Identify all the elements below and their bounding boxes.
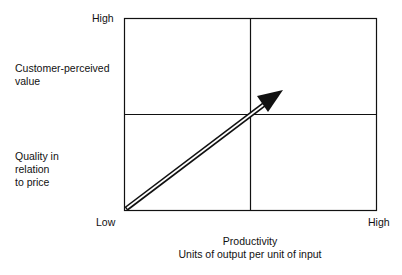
- y-axis-low-label: Low: [96, 216, 115, 229]
- y-axis-title-bottom-line-2: relation: [15, 163, 59, 176]
- y-axis-title-top-line-2: value: [15, 75, 110, 88]
- x-axis-high-label: High: [368, 216, 390, 229]
- y-axis-title-bottom: Quality in relation to price: [15, 150, 59, 189]
- trend-arrow-icon: [126, 90, 283, 209]
- matrix-diagram: [0, 0, 402, 275]
- y-axis-title-bottom-line-3: to price: [15, 176, 59, 189]
- y-axis-title-top: Customer-perceived value: [15, 62, 110, 88]
- y-axis-high-label: High: [92, 12, 114, 25]
- x-axis-subtitle: Units of output per unit of input: [150, 248, 350, 261]
- y-axis-title-top-line-1: Customer-perceived: [15, 62, 110, 75]
- y-axis-title-bottom-line-1: Quality in: [15, 150, 59, 163]
- x-axis-title: Productivity: [150, 235, 350, 248]
